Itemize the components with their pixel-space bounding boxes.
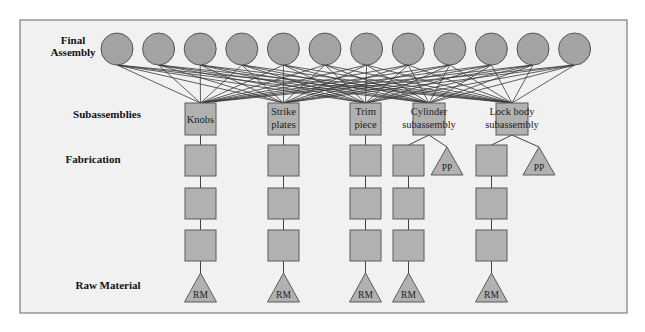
raw-material-label: RM bbox=[276, 290, 291, 300]
final-assembly-node bbox=[101, 33, 133, 65]
raw-material-label: RM bbox=[358, 290, 373, 300]
purchased-part-label: PP bbox=[534, 163, 545, 173]
fabrication-node bbox=[268, 188, 299, 219]
raw-material-label: RM bbox=[401, 290, 416, 300]
final-assembly-node bbox=[434, 33, 466, 65]
final-assembly-node bbox=[184, 33, 216, 65]
fabrication-node bbox=[185, 188, 216, 219]
final-assembly-node bbox=[267, 33, 299, 65]
final-assembly-node bbox=[475, 33, 507, 65]
final-assembly-node bbox=[351, 33, 383, 65]
final-assembly-node bbox=[559, 33, 591, 65]
lock-product-structure-diagram: FinalAssemblySubassembliesFabricationRaw… bbox=[0, 0, 645, 332]
fabrication-node bbox=[350, 230, 381, 261]
purchased-part-label: PP bbox=[442, 163, 453, 173]
subassembly-label: Knobs bbox=[187, 114, 214, 125]
fabrication-node bbox=[476, 145, 507, 176]
fabrication-node bbox=[185, 230, 216, 261]
fabrication-node bbox=[476, 188, 507, 219]
fabrication-node bbox=[393, 230, 424, 261]
fabrication-node bbox=[350, 188, 381, 219]
final-assembly-node bbox=[226, 33, 258, 65]
final-assembly-node bbox=[517, 33, 549, 65]
fabrication-node bbox=[268, 145, 299, 176]
final-assembly-node bbox=[392, 33, 424, 65]
final-assembly-node bbox=[309, 33, 341, 65]
raw-material-label: RM bbox=[484, 290, 499, 300]
fabrication-node bbox=[350, 145, 381, 176]
level-label-fab: Fabrication bbox=[66, 153, 121, 165]
level-label-sub: Subassemblies bbox=[73, 108, 142, 120]
fabrication-node bbox=[393, 145, 424, 176]
fabrication-node bbox=[185, 145, 216, 176]
raw-material-label: RM bbox=[193, 290, 208, 300]
level-label-raw: Raw Material bbox=[75, 279, 140, 291]
final-assembly-node bbox=[143, 33, 175, 65]
fabrication-node bbox=[268, 230, 299, 261]
fabrication-node bbox=[393, 188, 424, 219]
fabrication-node bbox=[476, 230, 507, 261]
